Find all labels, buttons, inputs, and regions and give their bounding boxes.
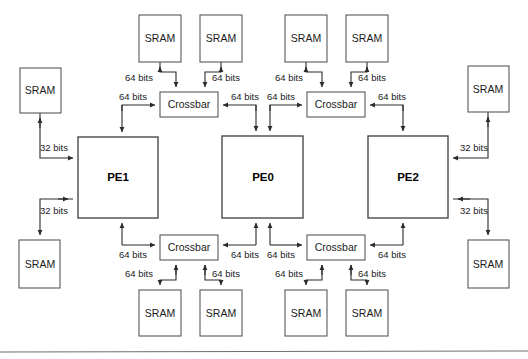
bus-label-bottom-1: 64 bits: [125, 268, 153, 279]
bus-label-xb-tr-right: 64 bits: [378, 91, 406, 102]
pe-layer: PE1 PE0 PE2: [78, 136, 448, 218]
crossbar-top-right[interactable]: Crossbar: [307, 92, 365, 117]
bus-label-left-lower: 32 bits: [40, 205, 68, 216]
sram-top-3-label: SRAM: [291, 32, 321, 44]
sram-bottom-2-label: SRAM: [206, 307, 236, 319]
bus-label-bottom-4: 64 bits: [358, 268, 386, 279]
bus-label-xb-tr-left: 64 bits: [267, 91, 295, 102]
bus-label-right-lower: 32 bits: [460, 205, 488, 216]
sram-left-bottom[interactable]: SRAM: [19, 240, 60, 288]
pe2-label: PE2: [397, 171, 419, 183]
bus-label-top-4: 64 bits: [358, 72, 386, 83]
bus-label-xb-bl-left: 64 bits: [119, 249, 147, 260]
sram-left-top[interactable]: SRAM: [20, 68, 61, 113]
sram-top-2[interactable]: SRAM: [200, 15, 242, 62]
sram-top-1[interactable]: SRAM: [139, 15, 181, 62]
bus-label-top-1: 64 bits: [125, 72, 153, 83]
crossbar-top-left[interactable]: Crossbar: [160, 92, 218, 117]
bus-label-xb-br-left: 64 bits: [267, 249, 295, 260]
wire-sram-top-3-to-crossbar-tr: [306, 62, 322, 87]
bus-label-bottom-3: 64 bits: [275, 268, 303, 279]
wire-crossbar-tl-to-pe1: [122, 105, 155, 111]
sram-bottom-3-label: SRAM: [291, 307, 321, 319]
sram-bottom-3[interactable]: SRAM: [285, 290, 327, 336]
wire-crossbar-tl-to-pe0: [223, 105, 256, 111]
crossbar-top-right-label: Crossbar: [315, 98, 358, 110]
sram-bottom-4-label: SRAM: [352, 307, 382, 319]
bus-label-xb-bl-right: 64 bits: [231, 249, 259, 260]
sram-top-4-label: SRAM: [352, 32, 382, 44]
sram-top-3[interactable]: SRAM: [285, 15, 327, 62]
sram-bottom-1-label: SRAM: [145, 307, 175, 319]
wire-crossbar-tr-to-pe2: [370, 105, 403, 111]
sram-right-top[interactable]: SRAM: [468, 66, 509, 112]
sram-bottom-1[interactable]: SRAM: [139, 290, 181, 336]
wire-sram-top-1-to-crossbar-tl: [160, 62, 176, 87]
block-diagram-figure: SRAM SRAM SRAM SRAM SRAM SRAM: [0, 0, 528, 359]
pe1-node[interactable]: PE1: [78, 137, 158, 218]
pe2-node[interactable]: PE2: [368, 136, 448, 218]
sram-right-bottom-label: SRAM: [473, 258, 503, 270]
wire-crossbar-br-to-sram-bottom-3: [306, 265, 322, 285]
bus-label-right-upper: 32 bits: [460, 142, 488, 153]
pe0-label: PE0: [252, 171, 274, 183]
wire-crossbar-tr-to-pe0-left: [270, 105, 302, 111]
bus-label-bottom-2: 64 bits: [212, 268, 240, 279]
sram-top-1-label: SRAM: [145, 32, 175, 44]
crossbar-top-left-label: Crossbar: [168, 98, 211, 110]
sram-left-top-label: SRAM: [25, 84, 55, 96]
crossbar-bottom-left-label: Crossbar: [168, 241, 211, 253]
diagram-canvas: SRAM SRAM SRAM SRAM SRAM SRAM: [0, 0, 528, 359]
bus-label-xb-tl-left: 64 bits: [119, 91, 147, 102]
crossbar-bottom-right[interactable]: Crossbar: [307, 235, 365, 260]
wire-crossbar-bl-to-sram-bottom-1: [160, 265, 176, 285]
bus-label-xb-tl-right: 64 bits: [231, 91, 259, 102]
bus-label-xb-br-right: 64 bits: [378, 249, 406, 260]
sram-top-4[interactable]: SRAM: [346, 15, 388, 62]
pe1-label: PE1: [107, 171, 129, 183]
figure-bottom-rule: [0, 351, 528, 352]
crossbar-bottom-right-label: Crossbar: [315, 241, 358, 253]
pe0-node[interactable]: PE0: [222, 136, 303, 218]
sram-right-top-label: SRAM: [473, 83, 503, 95]
sram-right-bottom[interactable]: SRAM: [468, 240, 509, 288]
bus-label-top-3: 64 bits: [275, 72, 303, 83]
sram-bottom-2[interactable]: SRAM: [200, 290, 242, 336]
sram-bottom-4[interactable]: SRAM: [346, 290, 388, 336]
crossbar-bottom-left[interactable]: Crossbar: [160, 235, 218, 260]
sram-top-2-label: SRAM: [206, 32, 236, 44]
sram-left-bottom-label: SRAM: [25, 258, 55, 270]
bus-label-left-upper: 32 bits: [40, 142, 68, 153]
bus-label-top-2: 64 bits: [212, 72, 240, 83]
